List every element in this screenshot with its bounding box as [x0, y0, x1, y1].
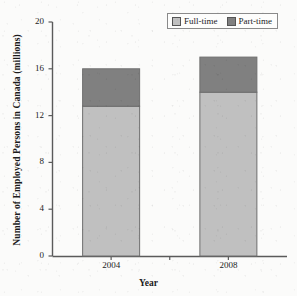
legend-label-full-time: Full-time — [184, 16, 218, 26]
bar-group — [83, 57, 257, 256]
x-axis-title: Year — [0, 278, 297, 288]
y-axis-title: Number of Employed Persons in Canada (mi… — [12, 15, 22, 265]
x-tick-label: 2008 — [198, 260, 258, 270]
bar-segment — [200, 92, 257, 256]
legend-swatch-full-time — [172, 17, 181, 26]
legend-label-part-time: Part-time — [239, 16, 273, 26]
x-tick-label: 2004 — [81, 260, 141, 270]
bar-segment — [83, 106, 140, 256]
bar-segment — [200, 57, 257, 92]
bar-segment — [83, 69, 140, 106]
chart-legend: Full-time Part-time — [167, 13, 278, 29]
legend-item-part-time: Part-time — [227, 16, 273, 26]
legend-item-full-time: Full-time — [172, 16, 218, 26]
legend-swatch-part-time — [227, 17, 236, 26]
stacked-bar-chart — [0, 0, 297, 296]
